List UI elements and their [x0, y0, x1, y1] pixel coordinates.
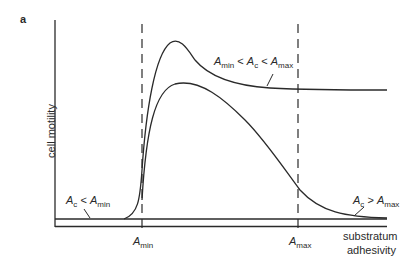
x-axis-label-line1: substratum — [343, 231, 397, 242]
sub: max — [278, 61, 293, 70]
op: < — [77, 194, 90, 206]
sub: max — [296, 241, 311, 250]
sub: min — [221, 61, 234, 70]
amin-tick-label: Amin — [133, 236, 153, 250]
label-middle-curve: Amin < Ac < Amax — [214, 56, 293, 70]
label-high-curve: Ac > Amax — [353, 195, 399, 209]
amax-tick-label: Amax — [289, 236, 311, 250]
op: < — [234, 55, 247, 67]
leader-low — [84, 209, 90, 218]
diagram-canvas — [0, 0, 418, 267]
op: > — [364, 194, 377, 206]
sub: min — [97, 200, 110, 209]
x-axis-label-line2: adhesivity — [347, 245, 396, 256]
op: < — [258, 55, 271, 67]
sub: min — [140, 241, 153, 250]
leader-middle — [267, 74, 273, 86]
y-axis-label: cell motility — [45, 96, 57, 166]
curve-high-adhesion — [142, 83, 387, 218]
sym: A — [271, 55, 278, 67]
sub: max — [384, 200, 399, 209]
label-low-curve: Ac < Amin — [66, 195, 110, 209]
